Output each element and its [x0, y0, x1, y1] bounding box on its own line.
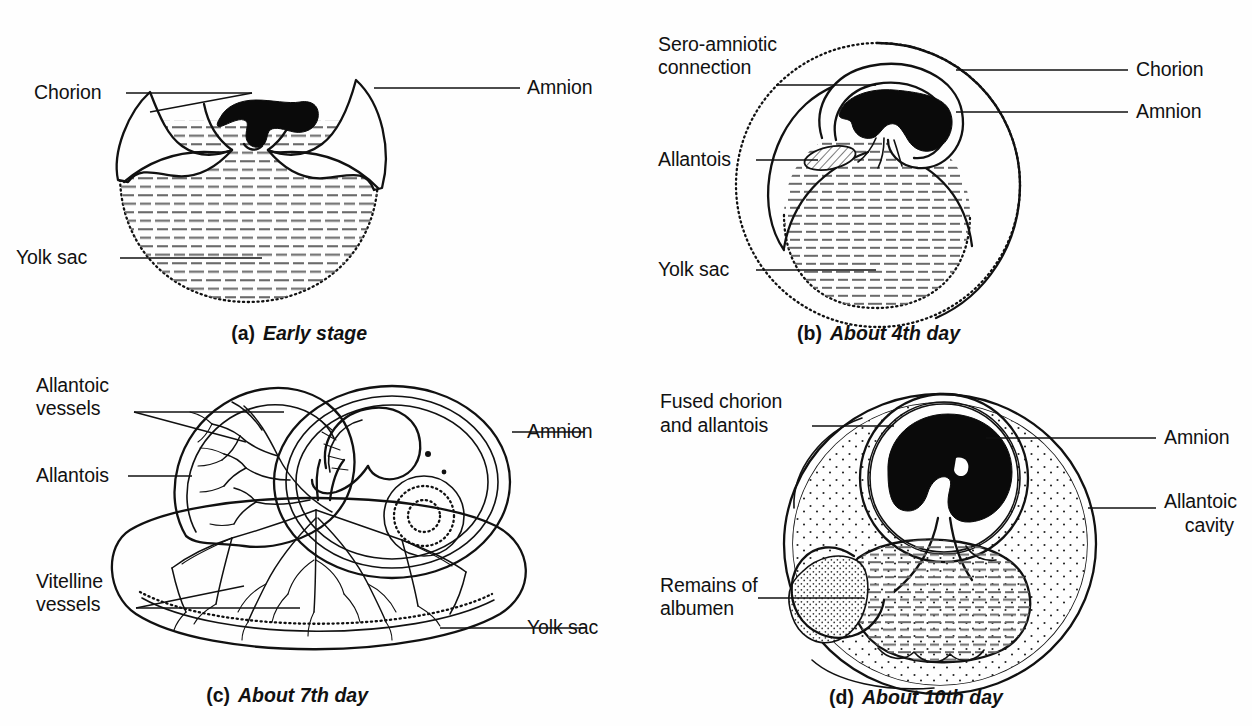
caption-index-d: (d) — [829, 686, 854, 708]
label-chorion-b: Chorion — [1136, 58, 1204, 80]
label-amnion-b: Amnion — [1136, 100, 1202, 122]
label-allantoic-cavity-line1-d: Allantoic — [1164, 490, 1237, 512]
coil-outer-c — [384, 476, 464, 556]
caption-text-a: Early stage — [263, 322, 367, 344]
panel-b-about-4th-day: Sero-amniotic connection Allantois Yolk … — [626, 0, 1252, 360]
embryo-inner-c — [329, 420, 362, 472]
embryo-eye-c — [425, 451, 431, 457]
label-allantois-b: Allantois — [658, 148, 731, 170]
label-amnion-a: Amnion — [527, 76, 593, 98]
embryo-d — [888, 414, 1012, 522]
yolk-stalk-c — [317, 460, 320, 500]
embryo-head-c — [312, 466, 368, 493]
label-allantoic-vessels-line1-c: Allantoic — [36, 374, 109, 396]
label-amnion-d: Amnion — [1164, 426, 1230, 448]
label-yolk-sac-a: Yolk sac — [16, 246, 87, 268]
label-chorion-a: Chorion — [34, 81, 102, 103]
caption-index-b: (b) — [797, 322, 822, 344]
panel-c-about-7th-day: Allantoic vessels Allantois Vitelline ve… — [0, 360, 626, 726]
embryonic-membranes-figure: Chorion Amnion Yolk sac (a) Early stage — [0, 0, 1252, 726]
label-sero-amniotic-line1-b: Sero-amniotic — [658, 33, 777, 55]
caption-text-d: About 10th day — [861, 686, 1004, 708]
label-remains-albumen-line2-d: albumen — [660, 597, 734, 619]
label-allantois-c: Allantois — [36, 464, 109, 486]
amnion-outer-c — [274, 386, 510, 578]
label-yolk-sac-c: Yolk sac — [527, 616, 598, 638]
label-yolk-sac-b: Yolk sac — [658, 258, 729, 280]
allantoic-vessels-c — [190, 402, 332, 526]
label-allantoic-cavity-line2-d: cavity — [1185, 514, 1235, 536]
panel-d-about-10th-day: Fused chorion and allantois Remains of a… — [626, 360, 1252, 726]
label-fused-chorion-line2-d: and allantois — [660, 414, 769, 436]
yolk-sac-inner-c — [142, 598, 494, 631]
caption-text-b: About 4th day — [829, 322, 961, 344]
embryo-spot-c — [442, 470, 447, 475]
label-amnion-c: Amnion — [527, 420, 593, 442]
label-sero-amniotic-line2-b: connection — [658, 56, 751, 78]
panel-a-early-stage: Chorion Amnion Yolk sac (a) Early stage — [0, 0, 626, 360]
caption-text-c: About 7th day — [237, 684, 369, 706]
leader-vitelline-2-c — [136, 586, 244, 608]
label-vitelline-vessels-line2-c: vessels — [36, 593, 101, 615]
caption-index-a: (a) — [231, 322, 255, 344]
label-fused-chorion-line1-d: Fused chorion — [660, 390, 782, 412]
label-vitelline-vessels-line1-c: Vitelline — [36, 570, 103, 592]
coil-mid-c — [394, 486, 454, 546]
caption-index-c: (c) — [206, 684, 230, 706]
label-allantoic-vessels-line2-c: vessels — [36, 397, 101, 419]
label-remains-albumen-line1-d: Remains of — [660, 574, 758, 596]
